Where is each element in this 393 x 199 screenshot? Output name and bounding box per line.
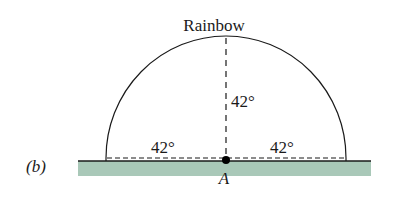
panel-label: (b) (26, 157, 46, 176)
rainbow-title: Rainbow (183, 16, 245, 35)
right-angle-label: 42° (270, 138, 294, 157)
observer-point (222, 156, 230, 164)
rainbow-diagram: Rainbow 42° 42° 42° A (b) (0, 0, 393, 199)
left-angle-label: 42° (151, 138, 175, 157)
observer-label: A (218, 169, 230, 188)
vertical-angle-label: 42° (231, 92, 255, 111)
